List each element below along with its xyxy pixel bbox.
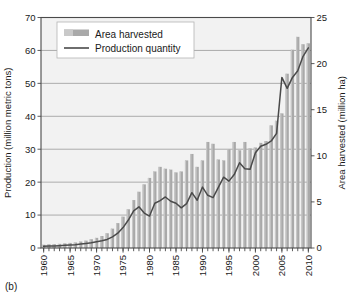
bar-highlight xyxy=(286,74,287,248)
y-axis-right: 0510152025Area harvested (million ha) xyxy=(311,12,347,254)
chart-legend: Area harvestedProduction quantity xyxy=(57,22,194,58)
bar-highlight xyxy=(217,159,218,248)
y-axis-tick-label: 70 xyxy=(25,12,36,23)
bar-highlight xyxy=(148,178,149,248)
bar-highlight xyxy=(259,143,260,248)
y2-axis-tick-label: 10 xyxy=(317,150,328,161)
x-axis-tick-label: 1970 xyxy=(91,255,102,276)
bar-highlight xyxy=(301,44,302,248)
x-axis-tick-label: 1975 xyxy=(117,255,128,276)
bar-highlight xyxy=(264,141,265,248)
bar-highlight xyxy=(296,37,297,248)
bar-highlight xyxy=(233,142,234,248)
bar-highlight xyxy=(196,167,197,248)
bar-highlight xyxy=(164,169,165,248)
x-axis-tick-label: 2005 xyxy=(276,255,287,276)
bar-highlight xyxy=(190,154,191,248)
y-axis-left: 010203040506070Production (million metri… xyxy=(2,12,41,254)
legend-label-production-quantity: Production quantity xyxy=(95,43,181,54)
y2-axis-tick-label: 0 xyxy=(317,242,322,253)
bar-highlight xyxy=(174,172,175,248)
x-axis-tick-label: 1995 xyxy=(223,255,234,276)
y2-axis-tick-label: 20 xyxy=(317,58,328,69)
x-axis-tick-label: 1980 xyxy=(144,255,155,276)
y-axis-tick-label: 60 xyxy=(25,45,36,56)
bar-highlight xyxy=(248,148,249,248)
y-axis-right-title: Area harvested (million ha) xyxy=(336,76,347,190)
y2-axis-tick-label: 5 xyxy=(317,196,322,207)
x-axis-tick-label: 2010 xyxy=(303,255,314,276)
y-axis-tick-label: 0 xyxy=(30,242,35,253)
x-axis-tick-label: 1960 xyxy=(38,255,49,276)
bar-highlight xyxy=(169,170,170,248)
legend-label-area-harvested: Area harvested xyxy=(95,29,163,40)
x-axis-tick-label: 1985 xyxy=(170,255,181,276)
y2-axis-tick-label: 25 xyxy=(317,12,328,23)
bar-highlight xyxy=(211,144,212,248)
bar-highlight xyxy=(180,171,181,248)
x-axis-tick-label: 1965 xyxy=(65,255,76,276)
bar-highlight xyxy=(227,149,228,248)
bar-highlight xyxy=(201,160,202,248)
bar-highlight xyxy=(100,236,101,248)
bar-highlight xyxy=(153,171,154,248)
chart-figure: 010203040506070Production (million metri… xyxy=(0,0,354,297)
y-axis-tick-label: 20 xyxy=(25,177,36,188)
bar-highlight xyxy=(280,113,281,248)
bar-highlight xyxy=(95,238,96,248)
bar-highlight xyxy=(275,121,276,248)
bar-highlight xyxy=(132,200,133,248)
x-axis-tick-label: 2000 xyxy=(250,255,261,276)
bar-highlight xyxy=(143,184,144,248)
y-axis-tick-label: 50 xyxy=(25,78,36,89)
y-axis-tick-label: 10 xyxy=(25,209,36,220)
legend-swatch-area-harvested xyxy=(64,30,89,37)
legend-bar-swatch-highlight xyxy=(64,30,73,37)
y-axis-tick-label: 40 xyxy=(25,111,36,122)
x-axis: 1960196519701975198019851990199520002005… xyxy=(38,248,314,276)
panel-label: (b) xyxy=(5,281,17,292)
area-harvested-production-chart: 010203040506070Production (million metri… xyxy=(0,0,354,297)
bar-highlight xyxy=(222,160,223,248)
bar-highlight xyxy=(116,223,117,248)
bar-highlight xyxy=(243,142,244,248)
bar-highlight xyxy=(137,192,138,248)
bar-highlight xyxy=(307,43,308,248)
x-axis-tick-label: 1990 xyxy=(197,255,208,276)
y2-axis-tick-label: 15 xyxy=(317,104,328,115)
bar-highlight xyxy=(106,233,107,248)
y-axis-tick-label: 30 xyxy=(25,144,36,155)
bar-highlight xyxy=(127,209,128,248)
bar-highlight xyxy=(158,167,159,248)
y-axis-left-title: Production (million metric tons) xyxy=(2,68,13,198)
bar-highlight xyxy=(121,217,122,248)
bar-highlight xyxy=(270,125,271,248)
bar-highlight xyxy=(254,148,255,249)
